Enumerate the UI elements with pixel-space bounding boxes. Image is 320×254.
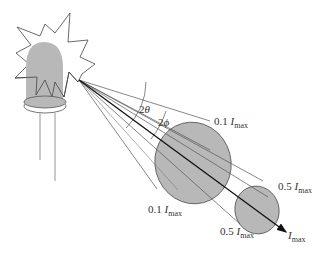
led-dome — [26, 42, 63, 102]
label-half-imax-top: 0.5 Imax — [278, 181, 312, 195]
label-half-imax-bottom: 0.5 Imax — [220, 226, 254, 240]
label-tenth-imax-top: 0.1 Imax — [214, 116, 248, 130]
phi-angle-label: 2ϕ — [158, 117, 169, 128]
theta-angle-label: 2θ — [139, 104, 150, 115]
outer-cone-bottom-edge — [79, 80, 157, 189]
guide-ray — [79, 80, 178, 190]
led-flange-top — [24, 96, 66, 108]
label-tenth-imax-bottom: 0.1 Imax — [148, 204, 182, 218]
label-imax-axis: Imax — [288, 230, 305, 244]
max-intensity-axis-arrow — [79, 80, 286, 232]
